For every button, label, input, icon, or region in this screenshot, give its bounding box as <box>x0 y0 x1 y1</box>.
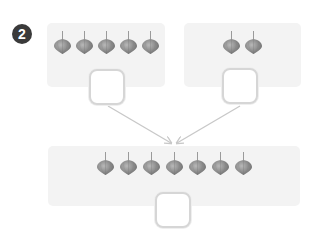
answer-box-total[interactable] <box>155 192 191 228</box>
spinning-top-icon <box>75 31 94 55</box>
spinning-top-icon <box>53 31 72 55</box>
problem-number-badge: 2 <box>12 24 32 44</box>
spinning-top-icon <box>97 31 116 55</box>
group-right-items <box>184 31 301 55</box>
group-left-items <box>47 31 165 55</box>
spinning-top-icon <box>141 31 160 55</box>
arrow-right <box>177 106 240 143</box>
spinning-top-icon <box>119 31 138 55</box>
answer-box-left[interactable] <box>89 69 125 105</box>
arrow-left <box>108 106 171 143</box>
spinning-top-icon <box>222 31 241 55</box>
spinning-top-icon <box>211 152 230 176</box>
spinning-top-icon <box>142 152 161 176</box>
spinning-top-icon <box>234 152 253 176</box>
spinning-top-icon <box>244 31 263 55</box>
spinning-top-icon <box>188 152 207 176</box>
spinning-top-icon <box>119 152 138 176</box>
spinning-top-icon <box>96 152 115 176</box>
answer-box-right[interactable] <box>222 68 258 104</box>
spinning-top-icon <box>165 152 184 176</box>
group-total-items <box>48 152 300 176</box>
